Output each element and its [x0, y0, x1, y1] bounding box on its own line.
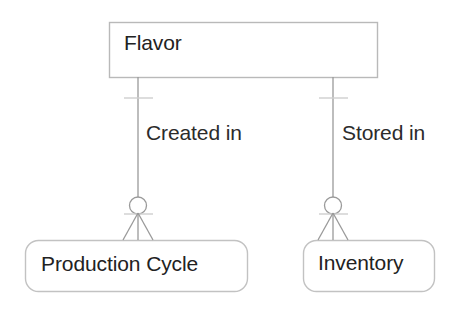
- relationship-label-stored-in: Stored in: [342, 121, 425, 145]
- entity-label-production-cycle: Production Cycle: [41, 252, 198, 276]
- crowsfoot-left-stored-in: [318, 213, 333, 240]
- crowsfoot-right-stored-in: [333, 213, 348, 240]
- crowsfoot-left-created-in: [123, 213, 138, 240]
- relationship-connector-created-in[interactable]: [123, 77, 153, 240]
- entity-label-inventory: Inventory: [318, 251, 403, 275]
- crowsfoot-right-created-in: [138, 213, 153, 240]
- cardinality-zero-circle-stored-in: [325, 197, 342, 214]
- relationship-label-created-in: Created in: [146, 121, 242, 145]
- entity-label-flavor: Flavor: [124, 31, 182, 55]
- relationship-connector-stored-in[interactable]: [318, 77, 348, 240]
- cardinality-zero-circle-created-in: [130, 197, 147, 214]
- er-diagram-canvas: Flavor Production Cycle Inventory Create…: [0, 0, 467, 312]
